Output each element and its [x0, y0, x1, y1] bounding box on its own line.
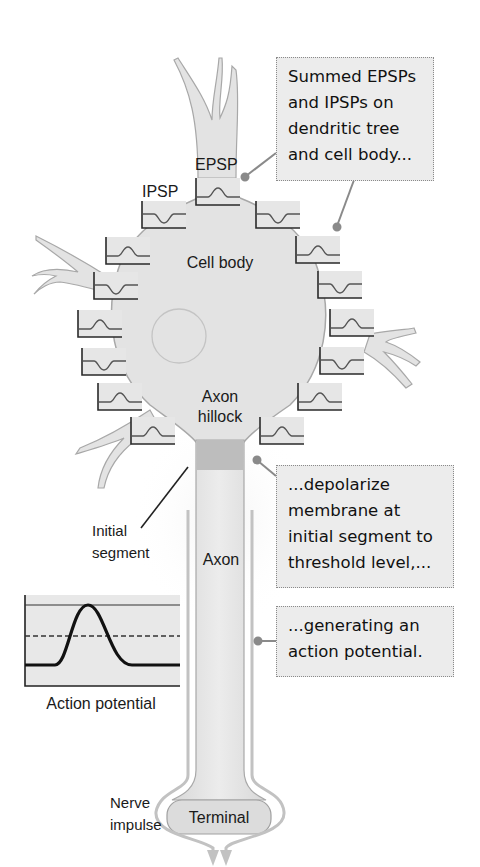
epsp-label: EPSP [195, 156, 238, 173]
synapse-inset-left [78, 310, 122, 337]
nerve-impulse-label-line2: impulse [110, 816, 162, 833]
axon-hillock-label-line2: hillock [198, 408, 243, 425]
initial-segment-label-line1: Initial [92, 522, 127, 539]
synapse-inset-right [296, 236, 340, 263]
callout-summed: Summed EPSPs and IPSPs on dendritic tree… [276, 57, 434, 181]
initial-segment [197, 440, 243, 470]
callout-generating: ...generating an action potential. [276, 606, 454, 677]
ipsp-inset-top [142, 201, 186, 228]
initial-segment-label-line2: segment [92, 544, 150, 561]
axon-hillock-label-line1: Axon [202, 388, 238, 405]
epsp-inset-top [196, 178, 240, 205]
synapse-inset-right [256, 201, 300, 228]
cell-body-label: Cell body [187, 254, 254, 271]
ipsp-label: IPSP [142, 183, 178, 200]
callout-generating-line: action potential. [288, 639, 445, 665]
callout-summed-line: and cell body... [288, 142, 425, 168]
synapse-inset-left [131, 417, 175, 444]
cell-body [112, 198, 326, 442]
callout-summed-line: and IPSPs on [288, 90, 425, 116]
synapse-inset-left [98, 383, 142, 410]
synapse-inset-left [82, 348, 126, 375]
synapse-inset-right [260, 417, 304, 444]
synapse-inset-right [330, 309, 374, 336]
synapse-inset-left [106, 237, 150, 264]
axon-label: Axon [203, 551, 239, 568]
callout-depolarize-line: membrane at [288, 498, 445, 524]
callout-depolarize-line: threshold level,... [288, 550, 445, 576]
synapse-inset-right [318, 271, 362, 298]
nerve-impulse-arrow-icon [207, 850, 232, 866]
callout-depolarize: ...depolarize membrane at initial segmen… [276, 465, 454, 588]
action-potential-inset [25, 595, 180, 686]
action-potential-label: Action potential [46, 695, 155, 712]
synapse-inset-left [94, 272, 138, 299]
callout-generating-line: ...generating an [288, 613, 445, 639]
terminal-label: Terminal [189, 809, 249, 826]
synapse-inset-right [320, 347, 364, 374]
callout-depolarize-line: initial segment to [288, 524, 445, 550]
nerve-impulse-label-line1: Nerve [110, 794, 150, 811]
synapse-inset-right [298, 383, 342, 410]
callout-summed-line: dendritic tree [288, 116, 425, 142]
callout-summed-line: Summed EPSPs [288, 64, 425, 90]
callout-depolarize-line: ...depolarize [288, 472, 445, 498]
